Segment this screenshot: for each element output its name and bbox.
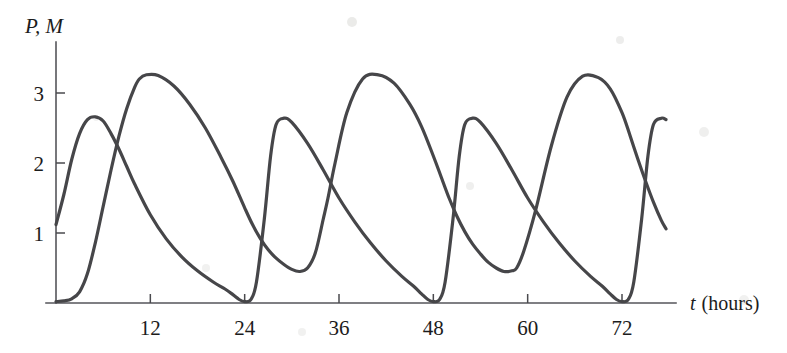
y-tick-label-2: 2 [34,152,45,176]
oscillation-line-chart: 123 122436486072 P, M t(hours) [0,0,787,353]
x-axis-label: t(hours) [690,292,759,315]
curve-M [56,74,666,301]
x-tick-label-36: 36 [329,316,350,340]
x-axis-ticks [150,294,622,303]
y-axis-label: P, M [24,14,65,38]
y-axis-tick-labels: 123 [34,82,45,246]
x-axis-label-unit: (hours) [702,292,760,315]
x-tick-label-72: 72 [612,316,633,340]
x-tick-label-48: 48 [423,316,444,340]
x-tick-label-24: 24 [234,316,256,340]
paper-texture [93,17,749,336]
x-axis-tick-labels: 122436486072 [140,316,633,340]
chart-figure: 123 122436486072 P, M t(hours) [0,0,787,353]
x-axis-label-symbol: t [690,292,696,314]
series-group [56,74,666,302]
x-tick-label-12: 12 [140,316,161,340]
y-tick-label-3: 3 [34,82,45,106]
y-tick-label-1: 1 [34,222,45,246]
curve-P [56,117,666,302]
x-tick-label-60: 60 [517,316,538,340]
